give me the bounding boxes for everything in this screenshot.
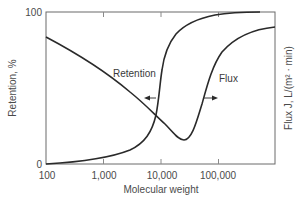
y-axis-label-left: Retention, % bbox=[7, 59, 18, 116]
bottom-ticks bbox=[104, 159, 219, 164]
x-tick-100: 100 bbox=[39, 170, 56, 181]
y-axis-label-right: Flux J, L/(m² · min) bbox=[283, 46, 294, 130]
retention-curve bbox=[46, 12, 260, 164]
x-axis-label: Molecular weight bbox=[123, 184, 198, 195]
x-tick-100000: 100,000 bbox=[200, 170, 237, 181]
x-tick-10000: 10,000 bbox=[147, 170, 178, 181]
top-ticks bbox=[104, 12, 219, 17]
x-tick-1000: 1,000 bbox=[91, 170, 116, 181]
retention-arrow-left-icon bbox=[144, 96, 156, 101]
flux-annotation: Flux bbox=[219, 73, 238, 84]
flux-arrow-right-icon bbox=[204, 96, 218, 101]
retention-annotation: Retention bbox=[113, 68, 156, 79]
chart: 100 0 100 1,000 10,000 100,000 Molecular… bbox=[0, 0, 299, 205]
y-tick-0: 0 bbox=[36, 159, 42, 170]
y-tick-100: 100 bbox=[25, 7, 42, 18]
